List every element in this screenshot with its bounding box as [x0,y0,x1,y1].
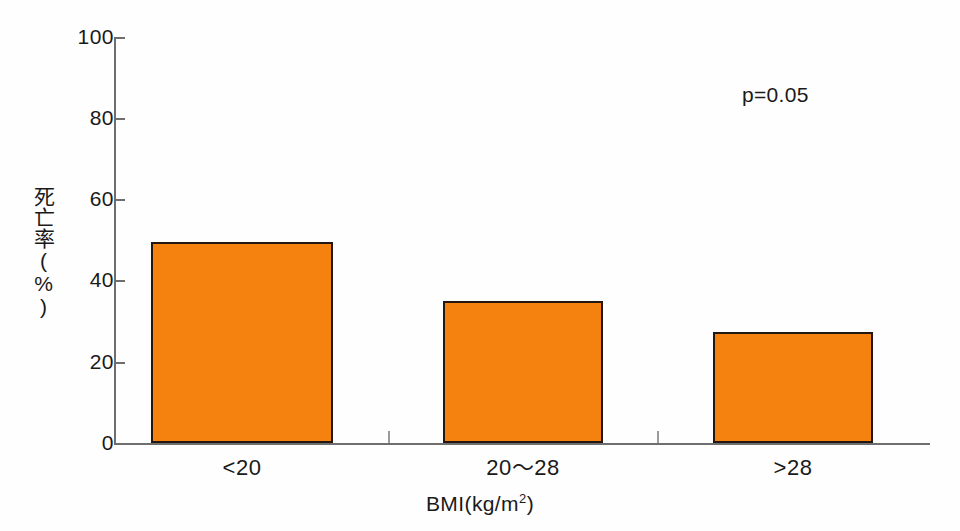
x-axis-title-main: BMI(kg/m [426,492,519,515]
y-tick-label-40: 40 [66,269,114,290]
x-tick-label-gt28: >28 [713,455,873,481]
p-value-annotation: p=0.05 [742,84,809,106]
y-tick-100: 100 [50,37,114,39]
x-tick-mark-2 [657,431,659,443]
bar-chart-figure: 100 80 60 40 20 0 死亡率(%) <20 20〜28 >28 B… [0,0,960,531]
y-tick-label-20: 20 [66,351,114,372]
y-tick-mark-100 [114,37,125,39]
y-tick-20: 20 [50,362,114,364]
y-tick-0: 0 [50,443,114,445]
x-axis-title: BMI(kg/m2) [0,492,960,516]
y-tick-label-100: 100 [66,26,114,47]
y-tick-mark-20 [114,362,125,364]
x-axis-line [114,443,930,445]
bar-20to28 [443,301,603,443]
x-axis-title-superscript: 2 [519,491,527,506]
y-tick-label-60: 60 [66,188,114,209]
y-tick-label-0: 0 [66,432,114,453]
bar-gt28 [713,332,873,443]
y-tick-80: 80 [50,118,114,120]
bar-lt20 [151,242,333,443]
x-tick-mark-1 [388,431,390,443]
x-tick-label-lt20: <20 [151,455,333,481]
y-axis-title: 死亡率(%) [26,186,56,318]
y-tick-mark-40 [114,280,125,282]
y-tick-mark-60 [114,199,125,201]
x-axis-title-close: ) [527,492,534,515]
y-tick-label-80: 80 [66,107,114,128]
y-tick-40: 40 [50,280,114,282]
y-axis-line [114,38,116,444]
x-tick-label-20to28: 20〜28 [443,455,603,481]
y-tick-mark-80 [114,118,125,120]
y-tick-60: 60 [50,199,114,201]
